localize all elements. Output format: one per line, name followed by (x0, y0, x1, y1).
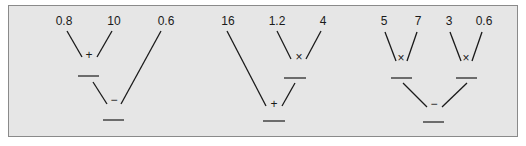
tree-1-input-3: 0.6 (158, 14, 175, 28)
tree-2-input-1: 16 (221, 14, 235, 28)
tree-2-input-3: 4 (320, 14, 327, 28)
tree-3-branch (442, 83, 467, 107)
tree-3-branch (403, 83, 427, 107)
tree-3-op-3: − (430, 97, 437, 111)
tree-1: 0.8 10 0.6 + − (56, 14, 175, 120)
tree-1-op-1: + (85, 48, 92, 62)
tree-3-branch (472, 32, 482, 61)
tree-1-branch (93, 82, 107, 104)
tree-1-input-2: 10 (107, 14, 121, 28)
tree-2-branch (227, 31, 266, 106)
tree-2-branch (277, 31, 291, 59)
tree-3-branch (450, 32, 461, 61)
tree-2-input-2: 1.2 (269, 14, 286, 28)
tree-3-input-3: 3 (446, 14, 453, 28)
tree-3-op-1: × (397, 51, 404, 65)
operation-trees: 0.8 10 0.6 + − 16 1.2 4 × + 5 7 3 0.6 × (0, 0, 526, 146)
tree-3-input-4: 0.6 (476, 14, 493, 28)
tree-3: 5 7 3 0.6 × × − (381, 14, 493, 122)
tree-1-op-2: − (110, 93, 117, 107)
tree-2-branch (306, 31, 321, 59)
tree-1-branch (121, 31, 161, 104)
tree-2-op-2: + (270, 97, 277, 111)
tree-2: 16 1.2 4 × + (221, 14, 326, 121)
tree-2-op-1: × (295, 50, 302, 64)
tree-1-input-1: 0.8 (56, 14, 73, 28)
tree-1-branch (97, 31, 112, 57)
tree-3-input-2: 7 (415, 14, 422, 28)
tree-3-input-1: 5 (381, 14, 388, 28)
tree-3-op-2: × (462, 51, 469, 65)
tree-3-branch (385, 32, 396, 61)
tree-1-branch (67, 31, 82, 57)
tree-3-branch (407, 32, 417, 61)
tree-2-branch (282, 83, 295, 106)
